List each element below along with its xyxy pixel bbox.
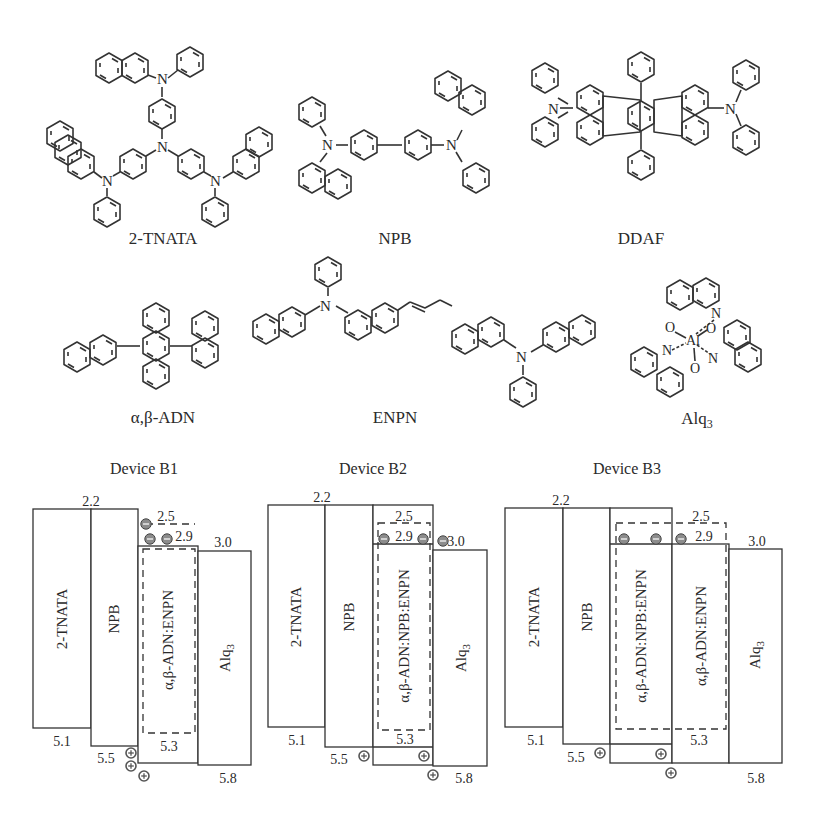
- device-title: Device B1: [110, 460, 178, 477]
- electron-icon: [379, 534, 389, 544]
- atom-n: N: [157, 71, 168, 87]
- electron-icon: [145, 534, 155, 544]
- atom-n: N: [102, 173, 113, 189]
- energy-label: 2.9: [395, 529, 413, 544]
- atom-n: N: [446, 137, 457, 153]
- layer-label: α,β-ADN:ENPN: [160, 590, 176, 690]
- energy-label: 5.3: [690, 733, 708, 748]
- molecule-label-npb: NPB: [378, 229, 411, 248]
- atom-n: N: [725, 101, 736, 117]
- layer-label: NPB: [579, 602, 595, 631]
- molecule-label-ddaf: DDAF: [618, 229, 664, 248]
- energy-label: 2.5: [395, 509, 413, 524]
- hole-icon: [126, 748, 136, 758]
- energy-label: 5.1: [288, 733, 306, 748]
- electron-icon: [141, 519, 151, 529]
- atom-n: N: [157, 139, 168, 155]
- energy-label: 2.9: [695, 529, 713, 544]
- energy-label: 2.5: [157, 509, 175, 524]
- device-title: Device B3: [593, 460, 661, 477]
- energy-label: 2.9: [175, 529, 193, 544]
- layer-label: α,β-ADN:NPB:ENPN: [633, 569, 649, 703]
- energy-label: 3.0: [748, 534, 766, 549]
- device-title: Device B2: [339, 460, 407, 477]
- electron-icon: [651, 534, 661, 544]
- energy-label: 5.5: [97, 751, 115, 766]
- layer-label: α,β-ADN:ENPN: [693, 586, 709, 686]
- energy-label: 3.0: [214, 535, 232, 550]
- energy-label: 5.8: [219, 771, 237, 786]
- atom-n: N: [210, 173, 221, 189]
- energy-label: 5.5: [330, 752, 348, 767]
- molecule-enpn: N N ENPN: [253, 257, 595, 427]
- energy-label: 5.3: [160, 739, 178, 754]
- atom-n: N: [516, 349, 527, 365]
- electron-icon: [162, 534, 172, 544]
- hole-icon: [666, 768, 676, 778]
- hole-icon: [428, 770, 438, 780]
- device-b1-diagram: Device B1 2.2 2.5 2.9 3.0 5.1 5.5 5.3 5.…: [33, 460, 251, 786]
- molecule-adn: α,β-ADN: [64, 303, 218, 427]
- atom-n: N: [320, 298, 331, 314]
- hole-icon: [126, 761, 136, 771]
- molecule-npb: N N NPB: [299, 71, 489, 248]
- hole-icon: [359, 751, 369, 761]
- molecule-alq3: N O Al O N N O Alq3: [631, 278, 761, 431]
- hole-icon: [656, 749, 666, 759]
- molecule-label-alq3: Alq3: [681, 409, 713, 431]
- atom-o: O: [665, 320, 675, 335]
- energy-label: 2.5: [692, 509, 710, 524]
- molecule-label-enpn: ENPN: [373, 408, 417, 427]
- layer-label: NPB: [106, 604, 122, 633]
- layer-label: 2-TNATA: [526, 587, 542, 648]
- energy-label: 5.3: [396, 732, 414, 747]
- hole-icon: [139, 771, 149, 781]
- energy-label: 5.1: [53, 734, 71, 749]
- electron-icon: [418, 534, 428, 544]
- electron-icon: [619, 534, 629, 544]
- molecule-label-adn: α,β-ADN: [131, 408, 195, 427]
- atom-o: O: [706, 321, 716, 336]
- energy-label: 2.2: [82, 494, 100, 509]
- molecule-ddaf: N N DDAF: [532, 52, 759, 248]
- atom-n: N: [708, 351, 718, 366]
- device-b3-diagram: Device B3 2.2 2.5 2.9 3.0 5.1 5.5 5.3 5.…: [505, 460, 782, 786]
- atom-o: O: [690, 361, 700, 376]
- molecule-label-2-tnata: 2-TNATA: [129, 229, 198, 248]
- energy-label: 5.5: [567, 750, 585, 765]
- energy-label: 5.8: [455, 771, 473, 786]
- energy-label: 3.0: [447, 534, 465, 549]
- atom-n: N: [548, 101, 559, 117]
- energy-label: 5.1: [527, 733, 545, 748]
- hole-icon: [419, 751, 429, 761]
- energy-label: 2.2: [552, 493, 570, 508]
- atom-n: N: [322, 137, 333, 153]
- hole-icon: [595, 748, 605, 758]
- layer-label: α,β-ADN:NPB:ENPN: [396, 569, 412, 703]
- electron-icon: [438, 536, 448, 546]
- layer-label: NPB: [341, 602, 357, 631]
- atom-n: N: [662, 343, 672, 358]
- molecule-2-tnata: N N N N 2-TNATA: [47, 47, 272, 248]
- layer-label: 2-TNATA: [54, 589, 70, 650]
- energy-label: 5.8: [747, 771, 765, 786]
- atom-n: N: [711, 306, 721, 321]
- device-b2-diagram: Device B2 2.2 2.5 2.9 3.0 5.1 5.5 5.3 5.…: [268, 460, 487, 786]
- electron-icon: [676, 534, 686, 544]
- energy-label: 2.2: [313, 490, 331, 505]
- layer-label: 2-TNATA: [288, 587, 304, 648]
